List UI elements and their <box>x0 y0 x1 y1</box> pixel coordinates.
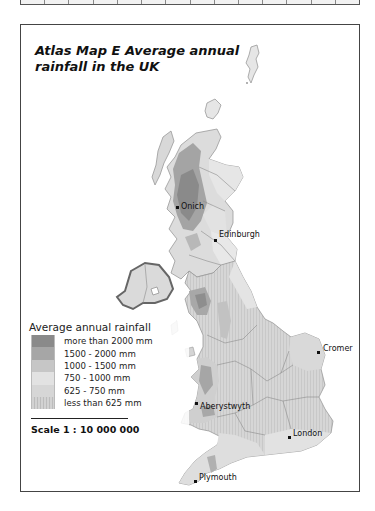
legend-item: 625 - 750 mm <box>29 385 189 397</box>
legend-label: 625 - 750 mm <box>64 386 125 396</box>
legend-label: 1500 - 2000 mm <box>64 349 136 359</box>
city-label: Cromer <box>323 344 353 353</box>
city-label: London <box>293 429 322 438</box>
city-plymouth: Plymouth <box>194 473 237 483</box>
legend-swatch <box>31 385 55 397</box>
legend-item: 1500 - 2000 mm <box>29 347 189 359</box>
city-marker-icon <box>195 402 198 405</box>
city-cromer: Cromer <box>317 344 353 354</box>
city-marker-icon <box>176 206 179 209</box>
city-london: London <box>288 429 322 439</box>
legend-label: less than 625 mm <box>64 398 142 408</box>
legend-swatch <box>31 347 55 359</box>
map-title: Atlas Map E Average annual rainfall in t… <box>35 43 265 75</box>
city-onich: Onich <box>176 202 204 211</box>
legend-item: 1000 - 1500 mm <box>29 360 189 372</box>
legend-item: more than 2000 mm <box>29 335 189 347</box>
previous-table-bottom-edge <box>20 0 360 5</box>
city-marker-icon <box>288 436 291 439</box>
city-label: Edinburgh <box>219 230 260 239</box>
rainfall-legend: Average annual rainfall more than 2000 m… <box>29 321 189 435</box>
city-label: Plymouth <box>199 473 237 482</box>
legend-swatch <box>31 335 55 347</box>
scale-divider <box>31 418 128 419</box>
legend-item: 750 - 1000 mm <box>29 372 189 384</box>
city-marker-icon <box>317 351 320 354</box>
legend-swatch <box>31 372 55 384</box>
orkney-islands <box>205 99 221 119</box>
legend-title: Average annual rainfall <box>29 321 189 333</box>
city-label: Onich <box>181 202 204 211</box>
city-marker-icon <box>214 239 217 242</box>
legend-swatch <box>31 360 55 372</box>
england-wales <box>179 261 333 485</box>
map-scale: Scale 1 : 10 000 000 <box>31 424 189 435</box>
legend-item: less than 625 mm <box>29 397 189 409</box>
atlas-map-frame: Onich Edinburgh Cromer Aberystwyth Londo… <box>20 24 360 492</box>
legend-label: 750 - 1000 mm <box>64 373 130 383</box>
northern-ireland <box>117 263 173 309</box>
legend-swatch <box>31 397 55 409</box>
legend-label: 1000 - 1500 mm <box>64 361 136 371</box>
city-marker-icon <box>194 480 197 483</box>
legend-label: more than 2000 mm <box>64 336 153 346</box>
city-label: Aberystwyth <box>200 402 250 411</box>
city-aberystwyth: Aberystwyth <box>195 402 250 411</box>
